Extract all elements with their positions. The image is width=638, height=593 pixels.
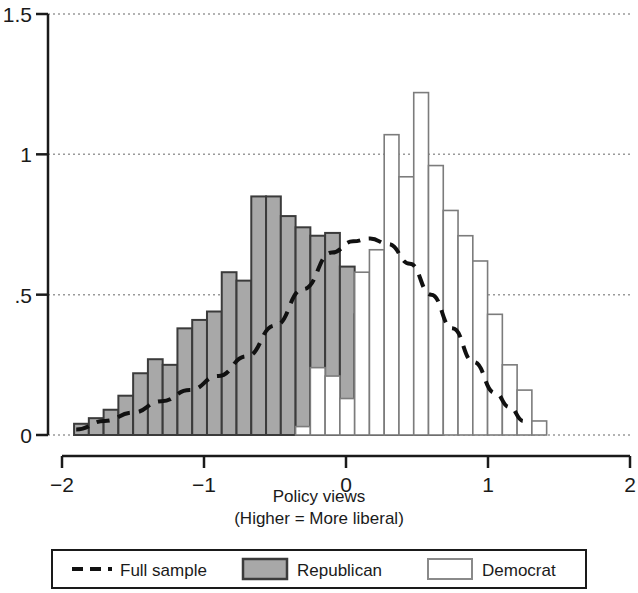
bar (310, 368, 325, 435)
bar (384, 135, 399, 435)
bar (473, 261, 488, 435)
y-tick-label: 0 (20, 424, 32, 447)
legend-label-democrat: Democrat (482, 561, 556, 580)
bar (532, 421, 547, 435)
legend-label-republican: Republican (297, 561, 382, 580)
bar (148, 359, 163, 435)
legend-label-full-sample: Full sample (120, 561, 207, 580)
bar (443, 210, 458, 435)
x-tick-label: 2 (624, 473, 636, 496)
bar (281, 216, 296, 435)
bar (133, 373, 148, 435)
bar (222, 272, 237, 435)
bar (296, 227, 311, 435)
chart-figure: 0.511.5 −2−1012 Policy views (Higher = M… (0, 0, 638, 593)
legend-marker-democrat (428, 559, 472, 579)
bar (355, 272, 370, 435)
x-tick-label: −1 (192, 473, 216, 496)
bar (266, 196, 281, 435)
bar (488, 314, 503, 435)
x-axis-title: Policy views (273, 487, 366, 506)
bar (177, 328, 192, 435)
bar (251, 196, 266, 435)
bar (296, 427, 311, 435)
bar (517, 390, 532, 435)
bar (325, 376, 340, 435)
legend-marker-republican (243, 559, 287, 579)
y-tick-label: 1.5 (3, 3, 32, 26)
x-tick-label: 1 (482, 473, 494, 496)
bar (414, 93, 429, 435)
bar (192, 320, 207, 435)
x-axis-subtitle: (Higher = More liberal) (234, 509, 404, 528)
bar (502, 365, 517, 435)
policy-views-histogram: 0.511.5 −2−1012 Policy views (Higher = M… (0, 0, 638, 593)
y-axis: 0.511.5 (3, 3, 48, 447)
plot-bars (74, 93, 547, 435)
y-tick-label: 1 (20, 143, 32, 166)
bar (399, 177, 414, 435)
bar (207, 312, 222, 435)
bar (340, 399, 355, 435)
legend: Full sample Republican Democrat (52, 550, 586, 588)
y-tick-label: .5 (14, 284, 32, 307)
bar (369, 250, 384, 435)
x-tick-label: −2 (50, 473, 74, 496)
